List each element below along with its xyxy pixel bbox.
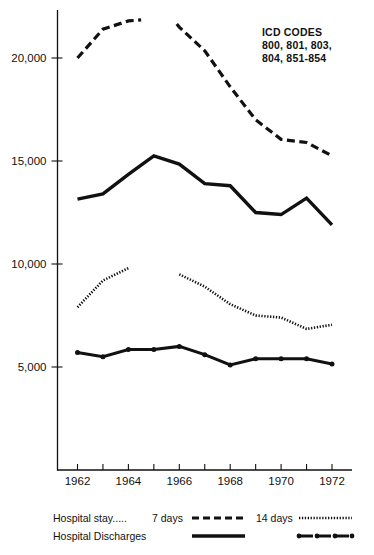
annotation-line: 804, 851-854	[262, 52, 326, 64]
legend-swatch-marker	[350, 534, 355, 539]
chart-legend: Hospital stay.....Hospital Discharges7 d…	[53, 512, 354, 542]
y-tick-label: 20,000	[11, 52, 46, 64]
series-line	[179, 274, 332, 329]
data-point-marker	[228, 362, 233, 367]
data-point-marker	[330, 361, 335, 366]
legend-label-7-days: 7 days	[152, 512, 183, 524]
data-point-marker	[100, 354, 105, 359]
data-point-marker	[253, 356, 258, 361]
x-tick-label: 1970	[268, 475, 294, 487]
data-point-marker	[202, 352, 207, 357]
legend-label-14-days: 14 days	[256, 512, 293, 524]
y-tick-label: 10,000	[11, 258, 46, 270]
x-tick-label: 1968	[217, 475, 243, 487]
series-line	[78, 156, 333, 225]
legend-label-hospital-stay: Hospital stay.....	[53, 512, 127, 524]
x-tick-label: 1964	[116, 475, 142, 487]
data-point-marker	[279, 356, 284, 361]
x-tick-label: 1962	[65, 475, 91, 487]
data-point-marker	[75, 350, 80, 355]
y-tick-label: 15,000	[11, 155, 46, 167]
data-series-group	[75, 20, 335, 368]
legend-swatch-marker	[333, 534, 338, 539]
legend-swatch-marker	[297, 534, 302, 539]
chart-canvas: 5,00010,00015,00020,000 1962196419661968…	[0, 0, 374, 555]
chart-figure: 5,00010,00015,00020,000 1962196419661968…	[0, 0, 374, 555]
data-point-marker	[304, 356, 309, 361]
series-line	[78, 268, 129, 307]
x-tick-label: 1966	[167, 475, 193, 487]
data-point-marker	[126, 347, 131, 352]
legend-label-hospital-discharges: Hospital Discharges	[53, 530, 146, 542]
x-tick-label: 1972	[319, 475, 345, 487]
data-point-marker	[177, 344, 182, 349]
data-point-marker	[151, 347, 156, 352]
annotation-line: 800, 801, 803,	[262, 39, 332, 51]
series-line	[78, 20, 142, 58]
y-axis: 5,00010,00015,00020,000	[11, 10, 62, 471]
x-axis: 196219641966196819701972	[57, 464, 352, 487]
legend-swatch-marker	[315, 534, 320, 539]
annotation-text: ICD CODES800, 801, 803,804, 851-854	[262, 26, 332, 64]
annotation-line: ICD CODES	[262, 26, 322, 38]
y-tick-label: 5,000	[18, 361, 47, 373]
